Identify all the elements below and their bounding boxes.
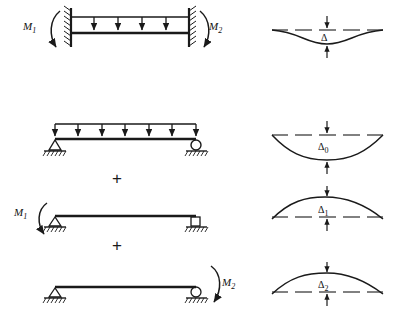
support-right-roller-4 bbox=[185, 287, 208, 303]
support-right-fixed-wall bbox=[189, 6, 196, 47]
moment-label-left: M1 bbox=[22, 20, 36, 35]
deflection-diagram-3: Δ1 bbox=[272, 186, 383, 231]
deflection-label-3: Δ1 bbox=[318, 204, 328, 218]
deflection-diagram-2: Δ0 bbox=[272, 121, 383, 174]
moment-label-right: M2 bbox=[208, 20, 222, 35]
support-left-fixed-wall bbox=[64, 6, 71, 47]
plus-operator-2: + bbox=[112, 236, 122, 255]
row-moment-m1: M1 bbox=[13, 203, 208, 234]
deflection-label-4: Δ2 bbox=[318, 279, 328, 293]
moment-label-right-4: M2 bbox=[221, 276, 235, 291]
beam-superposition-figure: M1 M2 Δ bbox=[0, 0, 417, 324]
support-left-pin-4 bbox=[43, 288, 66, 303]
moment-arrow-left bbox=[51, 11, 60, 47]
deflection-label-2: Δ0 bbox=[318, 141, 328, 155]
moment-arrow-right-4 bbox=[211, 266, 220, 302]
support-right-roller-3 bbox=[185, 217, 208, 232]
moment-arrow-left-3 bbox=[39, 203, 47, 234]
distributed-load-arrows bbox=[94, 17, 166, 30]
distributed-load-arrows-2 bbox=[55, 124, 196, 136]
moment-arrow-right bbox=[200, 11, 209, 47]
moment-label-left-3: M1 bbox=[13, 206, 27, 221]
support-left-pin-3 bbox=[43, 217, 66, 232]
row-moment-m2: M2 bbox=[43, 266, 235, 303]
support-left-pin bbox=[43, 140, 66, 156]
row-simply-supported-load bbox=[43, 124, 208, 156]
row-fixed-fixed: M1 M2 bbox=[22, 6, 222, 47]
deflection-diagram-4: Δ2 bbox=[272, 262, 383, 306]
deflection-diagram-1: Δ bbox=[272, 16, 383, 58]
deflection-label-1: Δ bbox=[321, 32, 328, 43]
plus-operator-1: + bbox=[112, 169, 122, 188]
support-right-roller bbox=[185, 140, 208, 156]
